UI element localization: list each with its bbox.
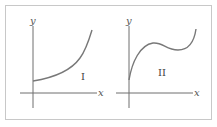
figure: y x I y x II: [0, 0, 217, 127]
figure-frame: [6, 6, 212, 120]
panel-i-label: I: [81, 71, 85, 82]
panel-ii-label: II: [158, 67, 166, 78]
panel-ii: y x II: [116, 15, 200, 108]
panel-i-y-axis-label: y: [29, 15, 36, 26]
panel-ii-y-axis-label: y: [125, 15, 132, 26]
panel-i-x-axis-label: x: [98, 87, 104, 98]
panel-ii-x-axis-label: x: [194, 87, 200, 98]
panel-i: y x I: [20, 15, 104, 108]
